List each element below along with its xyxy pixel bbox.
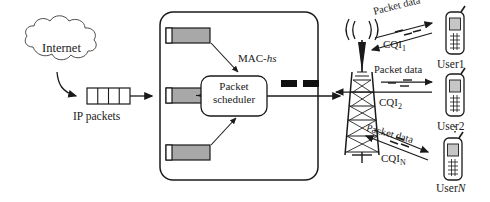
mobile-phone-icon-user-1 <box>446 6 465 54</box>
downlink-label-user-2: Packet data <box>374 64 422 75</box>
output-block-2 <box>303 80 319 87</box>
cloud-label: Internet <box>42 41 81 56</box>
uplink-label-user-1: CQI1 <box>383 38 406 53</box>
user-label-2-prefix: User <box>437 120 459 132</box>
uplink-label-user-2: CQI2 <box>379 96 402 111</box>
output-block-1 <box>281 80 297 87</box>
uplink-ticks-user-2 <box>388 80 412 86</box>
user-label-n: UserN <box>436 182 465 194</box>
priority-queue-1 <box>166 28 210 43</box>
user-label-1: User1 <box>437 58 464 70</box>
cqi-text-n: CQI <box>381 152 400 164</box>
arrow-cloud-to-queue <box>57 72 76 96</box>
cqi-text-1: CQI <box>383 38 402 50</box>
mac-hs-prefix: MAC- <box>238 52 267 64</box>
scheduler-label: Packetscheduler <box>205 80 263 105</box>
cqi-sub-2: 2 <box>398 102 402 111</box>
radio-waves-icon <box>346 19 378 40</box>
uplink-ticks-user-1 <box>395 30 421 35</box>
packet-queue-icon <box>87 88 130 104</box>
ip-packets-label: IP packets <box>73 110 120 122</box>
mac-hs-label: MAC-hs <box>238 52 277 64</box>
mobile-phone-icon-user-2 <box>446 68 465 116</box>
user-label-2-suffix: 2 <box>459 120 465 132</box>
priority-queue-3 <box>166 145 210 160</box>
user-label-1-prefix: User <box>437 58 459 70</box>
arrow-pq1-to-scheduler <box>211 43 238 72</box>
scheduler-label-line2: scheduler <box>213 93 255 105</box>
mobile-phone-icon-user-n <box>444 132 463 180</box>
cqi-sub-n: N <box>400 158 406 167</box>
scheduler-label-line1: Packet <box>219 80 248 92</box>
cqi-sub-1: 1 <box>402 44 406 53</box>
uplink-label-user-n: CQIN <box>381 152 406 167</box>
user-label-n-suffix: N <box>458 182 466 194</box>
diagram-canvas: Internet IP packets MAC-hs Packetschedul… <box>0 0 490 202</box>
arrow-pq3-to-scheduler <box>211 118 236 145</box>
cqi-text-2: CQI <box>379 96 398 108</box>
antenna-tower-icon <box>345 40 379 163</box>
user-label-2: User2 <box>437 120 464 132</box>
user-label-n-prefix: User <box>436 182 458 194</box>
user-label-1-suffix: 1 <box>459 58 465 70</box>
mac-hs-italic: hs <box>267 52 277 64</box>
